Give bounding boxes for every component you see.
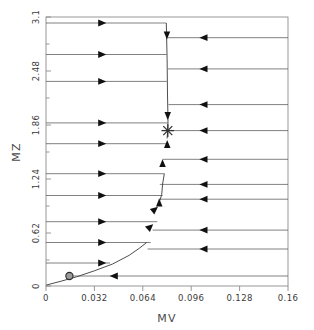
x-axis-tick-labels: 0 0.032 0.064 0.096 0.128 0.16 [43,293,298,303]
left-trajectory-5 [46,140,167,147]
x-tick-label: 0.16 [278,293,299,303]
right-trajectory-8 [153,227,288,234]
y-tick-label: 1.24 [31,169,41,190]
phase-portrait-figure: 3.1 2.48 1.86 1.24 0.62 0 0 0.032 0.064 … [0,0,314,330]
y-tick-label: 0 [31,283,41,289]
x-tick-label: 0.128 [226,293,252,303]
plot-canvas: 3.1 2.48 1.86 1.24 0.62 0 0 0.032 0.064 … [0,0,314,330]
x-axis-ticks [46,286,288,291]
right-trajectory-2 [168,66,288,73]
x-tick-label: 0.032 [81,293,107,303]
y-tick-label: 0.62 [31,223,41,244]
right-trajectory-5 [163,156,289,163]
left-trajectory-9 [46,239,151,246]
left-trajectory-6 [46,170,164,177]
x-tick-label: 0 [43,293,49,303]
x-tick-label: 0.096 [178,293,204,303]
y-axis-ticks [46,17,51,286]
y-tick-label: 3.1 [31,10,41,25]
right-trajectory-6 [160,181,288,188]
left-trajectory-4 [46,120,167,127]
y-axis-title: MZ [10,142,23,161]
right-trajectory-4 [168,127,288,134]
stable-node-marker [66,272,73,279]
left-trajectory-10 [46,260,110,267]
y-tick-label: 1.86 [31,115,41,136]
right-trajectory-10 [73,273,288,280]
left-trajectory-2 [46,51,167,58]
y-axis-tick-labels: 3.1 2.48 1.86 1.24 0.62 0 [31,10,41,289]
right-trajectory-9 [148,246,288,253]
x-axis-title: MV [157,312,176,325]
x-tick-label: 0.064 [130,293,156,303]
left-trajectory-7 [46,192,163,199]
right-trajectory-3 [169,101,289,108]
separatrix-lower [46,207,158,285]
right-trajectory-1 [168,34,288,41]
left-trajectory-8 [46,218,157,225]
saddle-point-marker [162,124,175,137]
left-trajectory-3 [46,78,167,85]
y-tick-label: 2.48 [31,61,41,82]
left-trajectory-1 [46,20,166,27]
right-trajectory-7 [159,196,288,203]
